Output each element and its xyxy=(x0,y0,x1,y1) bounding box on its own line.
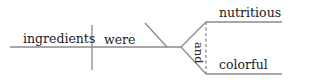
conjunction-word: and xyxy=(193,42,205,64)
complement-word-2: colorful xyxy=(219,59,268,72)
complement-slant xyxy=(145,23,167,47)
subject-word: ingredients xyxy=(23,33,95,46)
complement-word-1: nutritious xyxy=(219,7,281,20)
verb-word: were xyxy=(104,34,135,47)
